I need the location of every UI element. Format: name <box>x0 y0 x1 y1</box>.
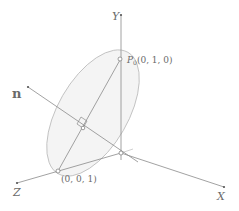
z-axis-tip <box>16 182 18 184</box>
y-axis-tip <box>120 14 122 16</box>
pz-label: (0, 0, 1) <box>61 174 97 184</box>
x-axis <box>121 153 224 187</box>
normal-tip <box>27 86 29 88</box>
p0-coords: (0, 1, 0) <box>137 55 173 65</box>
point-z <box>56 169 60 173</box>
y-axis-label: Y <box>112 10 121 23</box>
x-axis-tip <box>223 186 225 188</box>
p0-label: P0(0, 1, 0) <box>126 55 173 66</box>
x-axis-label: X <box>216 190 226 203</box>
normal-label: n <box>12 86 22 101</box>
foot-point <box>81 126 85 130</box>
point-p0 <box>118 57 122 61</box>
z-axis-label: Z <box>12 186 21 199</box>
plane-normal-diagram: Y X Z n P0(0, 1, 0) (0, 0, 1) <box>0 0 239 211</box>
origin-point <box>119 151 123 155</box>
